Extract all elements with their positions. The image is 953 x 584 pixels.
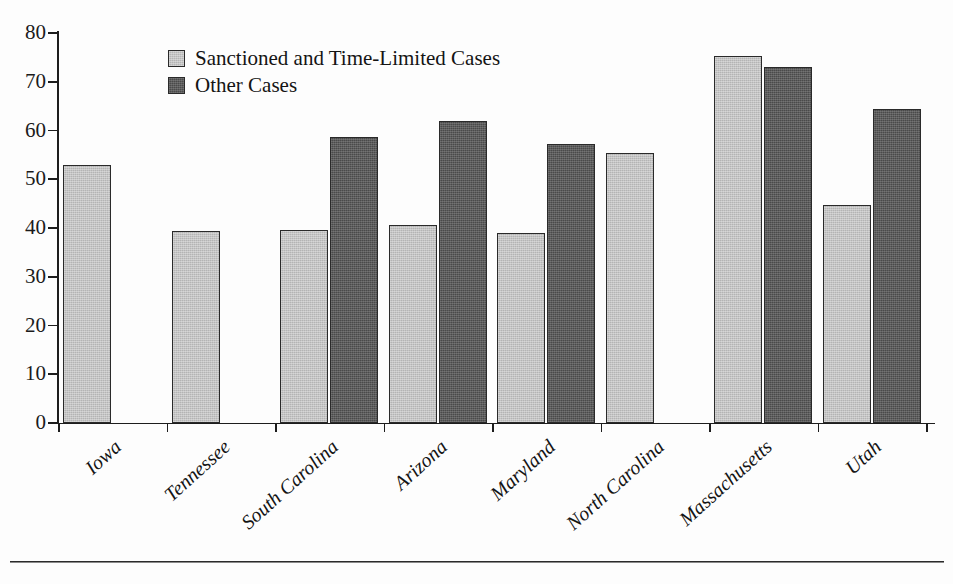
x-tick-mark bbox=[926, 423, 928, 432]
chart-page: 01020304050607080 IowaTennesseeSouth Car… bbox=[0, 0, 953, 584]
y-tick-label: 30 bbox=[4, 266, 46, 287]
bar-massachusetts-other bbox=[764, 67, 812, 423]
y-tick-label: 0 bbox=[4, 412, 46, 433]
bar-arizona-other bbox=[439, 121, 487, 423]
y-tick-label: 50 bbox=[4, 168, 46, 189]
x-tick-mark bbox=[818, 423, 820, 432]
y-tick-label: 10 bbox=[4, 363, 46, 384]
y-tick-mark bbox=[48, 178, 57, 180]
bar-tennessee-sanctioned bbox=[172, 231, 220, 423]
legend-item-other: Other Cases bbox=[168, 72, 500, 99]
bar-maryland-other bbox=[547, 144, 595, 423]
x-tick-mark bbox=[384, 423, 386, 432]
y-tick-label: 40 bbox=[4, 217, 46, 238]
y-tick-mark bbox=[48, 422, 57, 424]
bar-north-carolina-sanctioned bbox=[606, 153, 654, 423]
bar-massachusetts-sanctioned bbox=[714, 56, 762, 423]
legend-item-sanctioned: Sanctioned and Time-Limited Cases bbox=[168, 45, 500, 72]
bar-south-carolina-other bbox=[330, 137, 378, 423]
bar-utah-sanctioned bbox=[823, 205, 871, 423]
bar-arizona-sanctioned bbox=[389, 225, 437, 423]
legend-swatch-light-icon bbox=[168, 50, 185, 67]
y-tick-mark bbox=[48, 325, 57, 327]
footer-divider bbox=[10, 561, 944, 563]
x-tick-mark bbox=[601, 423, 603, 432]
y-axis-line bbox=[57, 31, 59, 424]
bar-utah-other bbox=[873, 109, 921, 423]
bar-iowa-sanctioned bbox=[63, 165, 111, 423]
bar-south-carolina-sanctioned bbox=[280, 230, 328, 423]
y-tick-mark bbox=[48, 32, 57, 34]
y-tick-mark bbox=[48, 373, 57, 375]
x-tick-mark bbox=[275, 423, 277, 432]
x-tick-mark bbox=[709, 423, 711, 432]
chart-legend: Sanctioned and Time-Limited Cases Other … bbox=[168, 45, 500, 99]
legend-label-sanctioned: Sanctioned and Time-Limited Cases bbox=[195, 47, 500, 70]
legend-swatch-dark-icon bbox=[168, 77, 185, 94]
y-tick-mark bbox=[48, 81, 57, 83]
bar-maryland-sanctioned bbox=[497, 233, 545, 423]
y-tick-label: 80 bbox=[4, 22, 46, 43]
y-tick-label: 20 bbox=[4, 315, 46, 336]
x-tick-mark bbox=[167, 423, 169, 432]
x-tick-mark bbox=[492, 423, 494, 432]
x-tick-mark bbox=[58, 423, 60, 432]
y-tick-mark bbox=[48, 227, 57, 229]
y-tick-mark bbox=[48, 276, 57, 278]
y-tick-mark bbox=[48, 130, 57, 132]
legend-label-other: Other Cases bbox=[195, 74, 297, 97]
y-tick-label: 70 bbox=[4, 71, 46, 92]
y-tick-label: 60 bbox=[4, 120, 46, 141]
bar-chart-plot-area: 01020304050607080 IowaTennesseeSouth Car… bbox=[0, 0, 953, 584]
